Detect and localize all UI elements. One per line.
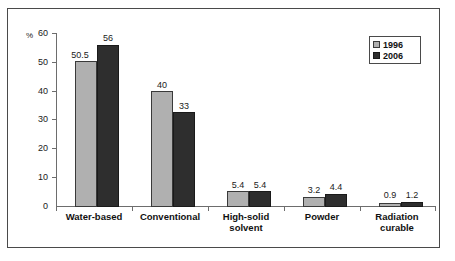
x-axis-category-label-water-based: Water-based bbox=[56, 211, 132, 222]
bar-value-2006-high-solid-solvent: 5.4 bbox=[245, 180, 275, 190]
light-gray-swatch-icon bbox=[373, 41, 380, 48]
bar-1996-high-solid-solvent[interactable] bbox=[227, 191, 249, 207]
x-axis-category-label-conventional: Conventional bbox=[132, 211, 208, 222]
y-tick-50 bbox=[52, 62, 56, 63]
y-axis-label-60: 60 bbox=[26, 29, 48, 38]
legend-entry-2006[interactable]: 2006 bbox=[373, 50, 417, 61]
dark-gray-swatch-icon bbox=[373, 52, 380, 59]
y-axis-label-50: 50 bbox=[26, 58, 48, 67]
legend-entry-1996[interactable]: 1996 bbox=[373, 39, 417, 50]
y-axis-line bbox=[56, 33, 57, 207]
bar-value-2006-radiation-curable: 1.2 bbox=[397, 190, 427, 200]
bar-1996-radiation-curable[interactable] bbox=[379, 203, 401, 207]
x-axis-category-label-radiation-curable: Radiation curable bbox=[359, 211, 435, 233]
x-axis-category-label-high-solid-solvent: High-solid solvent bbox=[208, 211, 284, 233]
y-axis-label-40: 40 bbox=[26, 87, 48, 96]
bar-value-1996-water-based: 50.5 bbox=[63, 50, 97, 60]
bar-2006-conventional[interactable] bbox=[173, 112, 195, 207]
y-tick-60 bbox=[52, 33, 56, 34]
y-tick-20 bbox=[52, 148, 56, 149]
bar-1996-powder[interactable] bbox=[303, 197, 325, 207]
bar-2006-powder[interactable] bbox=[325, 194, 347, 207]
y-tick-30 bbox=[52, 119, 56, 120]
bar-value-2006-powder: 4.4 bbox=[321, 182, 351, 192]
y-axis-label-10: 10 bbox=[26, 173, 48, 182]
bar-value-2006-conventional: 33 bbox=[169, 101, 199, 111]
chart-legend: 1996 2006 bbox=[369, 36, 421, 64]
bar-value-2006-water-based: 56 bbox=[93, 33, 123, 43]
bar-2006-water-based[interactable] bbox=[97, 45, 119, 207]
x-tick-5 bbox=[435, 207, 436, 211]
bar-chart-plot-area: % 60 50 40 30 20 10 0 bbox=[0, 0, 455, 261]
bar-value-1996-conventional: 40 bbox=[147, 80, 177, 90]
chart-screenshot: % 60 50 40 30 20 10 0 bbox=[0, 0, 455, 261]
bar-1996-water-based[interactable] bbox=[75, 61, 97, 207]
bar-2006-high-solid-solvent[interactable] bbox=[249, 191, 271, 207]
y-tick-10 bbox=[52, 177, 56, 178]
y-axis-label-0: 0 bbox=[26, 202, 48, 211]
legend-label-1996: 1996 bbox=[383, 40, 403, 50]
x-axis-category-label-powder: Powder bbox=[284, 211, 360, 222]
bar-2006-radiation-curable[interactable] bbox=[401, 202, 423, 207]
y-tick-40 bbox=[52, 91, 56, 92]
y-axis-label-30: 30 bbox=[26, 115, 48, 124]
y-axis-label-20: 20 bbox=[26, 144, 48, 153]
legend-label-2006: 2006 bbox=[383, 51, 403, 61]
